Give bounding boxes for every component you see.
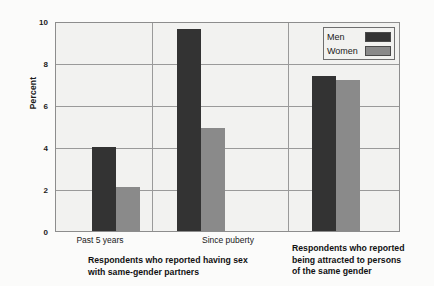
caption-right-line1: Respondents who reported [292, 243, 404, 255]
y-tick-label-0: 0 [26, 228, 48, 237]
legend-label-men: Men [327, 32, 345, 42]
y-tick-label-6: 6 [26, 102, 48, 111]
caption-right: Respondents who reported being attracted… [292, 243, 404, 278]
y-tick-label-2: 2 [26, 186, 48, 195]
legend-swatch-women-icon [365, 46, 391, 56]
caption-right-line3: of the same gender [292, 266, 404, 278]
category-label-since-puberty: Since puberty [185, 235, 271, 245]
category-label-past-5-years: Past 5 years [62, 235, 138, 245]
caption-left-line1: Respondents who reported having sex [88, 255, 248, 267]
chart-screenshot: Percent 10 8 6 4 2 0 Men Women [0, 0, 434, 286]
y-tick-label-8: 8 [26, 60, 48, 69]
bar-men-past-5-years [92, 147, 116, 231]
gridline-x-2 [288, 23, 289, 231]
bar-women-since-puberty [201, 128, 225, 231]
legend-entry-men: Men [327, 30, 391, 44]
bar-men-attraction [312, 76, 336, 231]
legend: Men Women [323, 27, 395, 60]
legend-swatch-men-icon [365, 32, 391, 42]
bar-women-past-5-years [116, 187, 140, 231]
caption-left-line2: with same-gender partners [88, 267, 248, 279]
bar-women-attraction [336, 80, 360, 231]
gridline-y-8 [56, 64, 399, 65]
bar-men-since-puberty [177, 29, 201, 231]
y-tick-label-10: 10 [26, 18, 48, 27]
legend-entry-women: Women [327, 44, 391, 58]
caption-left: Respondents who reported having sex with… [88, 255, 248, 278]
legend-label-women: Women [327, 46, 358, 56]
gridline-x-1 [152, 23, 153, 231]
y-tick-label-4: 4 [26, 144, 48, 153]
caption-right-line2: being attracted to persons [292, 255, 404, 267]
